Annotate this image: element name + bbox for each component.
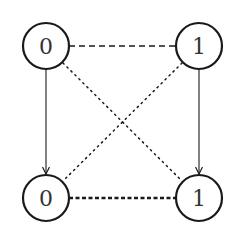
node-label: 0 — [39, 186, 53, 211]
node-label: 0 — [39, 34, 53, 59]
node-top-left: 0 — [23, 23, 69, 69]
graph-canvas: 0 1 0 1 — [0, 0, 242, 231]
node-bottom-left: 0 — [23, 175, 69, 221]
graph-diagram: 0 1 0 1 — [0, 0, 242, 231]
node-bottom-right: 1 — [176, 175, 222, 221]
node-label: 1 — [192, 34, 206, 59]
node-top-right: 1 — [176, 23, 222, 69]
node-label: 1 — [192, 186, 206, 211]
